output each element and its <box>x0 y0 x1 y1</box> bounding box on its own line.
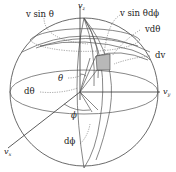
label-v-sin-theta: v sin θ <box>25 9 54 19</box>
leader-dtheta <box>40 88 78 93</box>
label-theta: θ <box>58 73 63 83</box>
label-dphi: dϕ <box>64 136 75 146</box>
phi-arc <box>64 104 90 110</box>
label-v-dtheta: vdθ <box>144 24 160 34</box>
meridian-5 <box>84 18 99 78</box>
label-phi: ϕ <box>71 110 77 120</box>
leader-dv <box>114 56 150 64</box>
vx-label: vx <box>4 147 12 157</box>
vy-label: vy <box>163 87 171 98</box>
label-v-sin-theta-dphi: v sin θdϕ <box>119 8 159 18</box>
leader-v-sin-theta-dphi <box>104 14 122 54</box>
meridian-2 <box>84 18 103 168</box>
vz-label: vz <box>78 1 86 11</box>
leader-dphi <box>80 124 90 144</box>
velocity-sphere-diagram: vz vy vx v sin θ v sin θdϕ vdθ dv θ dθ ϕ… <box>0 0 176 172</box>
mid-latitude-3 <box>36 38 138 48</box>
volume-element <box>96 54 110 70</box>
label-dtheta: dθ <box>24 86 35 96</box>
label-dv: dv <box>155 50 165 60</box>
